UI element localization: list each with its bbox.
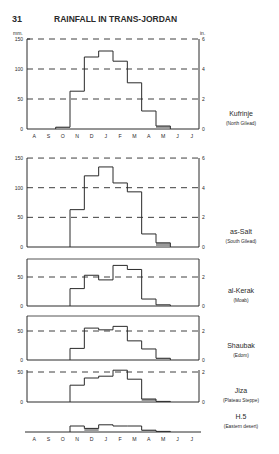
y2-tick-label: 6 (202, 36, 205, 42)
station-name: al-Kerak (228, 287, 255, 294)
month-label: M (132, 133, 136, 139)
station-name: Jiza (235, 387, 248, 394)
rainfall-panel-shaubak: 00502Shaubak(Edom) (17, 316, 255, 363)
small-bar-shade (84, 428, 98, 432)
y-tick-label: 150 (15, 36, 24, 42)
y-tick-label: 50 (17, 328, 23, 334)
station-region: (Edom) (233, 353, 249, 358)
rainfall-histogram (70, 167, 170, 247)
month-label: A (32, 133, 36, 139)
month-label: N (75, 133, 79, 139)
y-tick-label: 0 (20, 244, 23, 250)
station-region: (North Gilead) (226, 121, 257, 126)
station-name: H.5 (236, 413, 247, 420)
y-tick-label: 0 (20, 357, 23, 363)
month-label: M (161, 133, 165, 139)
y2-tick-label: 0 (202, 126, 205, 132)
month-label: J (176, 436, 179, 442)
rainfall-panel-al-kerak: 00502al-Kerak(Moab) (17, 259, 254, 309)
month-label: D (90, 133, 94, 139)
month-label: D (90, 436, 94, 442)
rainfall-histogram (70, 370, 170, 402)
month-label: F (119, 133, 122, 139)
month-label: N (75, 436, 79, 442)
month-label: A (147, 436, 151, 442)
y2-tick-label: 4 (202, 185, 205, 191)
station-name: Shaubak (227, 342, 255, 349)
y2-tick-label: 0 (202, 399, 205, 405)
month-label: F (119, 436, 122, 442)
y-tick-label: 100 (15, 185, 24, 191)
rainfall-figure: 31 RAINFALL IN TRANS-JORDAN mm. in. 0050… (0, 0, 279, 454)
y2-tick-label: 0 (202, 357, 205, 363)
y-tick-label: 50 (17, 369, 23, 375)
month-label: J (105, 436, 108, 442)
y2-tick-label: 2 (202, 96, 205, 102)
y-tick-label: 50 (17, 274, 23, 280)
month-label: A (32, 436, 36, 442)
chart-panels: 0050210041506Kufrinje(North Gilead)00502… (15, 36, 260, 432)
y-tick-label: 50 (17, 214, 23, 220)
month-label: S (47, 133, 51, 139)
month-label: S (47, 436, 51, 442)
station-region: (Moab) (233, 298, 249, 303)
rainfall-panel-h-5: H.5(Eastern desert) (25, 413, 259, 432)
month-label: J (191, 133, 194, 139)
y2-tick-label: 0 (202, 244, 205, 250)
month-axis-bottom: ASONDJFMAMJJ (32, 436, 193, 442)
y-tick-label: 0 (20, 126, 23, 132)
month-label: A (147, 133, 151, 139)
rainfall-histogram (70, 265, 170, 306)
y-tick-label: 0 (20, 303, 23, 309)
station-name: as-Salt (230, 228, 252, 235)
y-tick-label: 50 (17, 96, 23, 102)
station-region: (Plateau Steppe) (223, 398, 259, 403)
y-tick-label: 0 (20, 399, 23, 405)
y2-tick-label: 2 (202, 369, 205, 375)
month-label: M (132, 436, 136, 442)
page-number: 31 (12, 14, 22, 24)
station-name: Kufrinje (229, 110, 253, 118)
y2-tick-label: 2 (202, 274, 205, 280)
month-label: J (191, 436, 194, 442)
month-label: O (61, 436, 65, 442)
figure-title: RAINFALL IN TRANS-JORDAN (54, 14, 177, 24)
small-bar-shade (156, 243, 170, 247)
y-tick-label: 150 (15, 155, 24, 161)
rainfall-histogram (56, 51, 171, 129)
month-label: M (161, 436, 165, 442)
rainfall-panel-as-salt: 0050210041506as-Salt(South Gilead) (15, 155, 257, 250)
rainfall-panel-kufrinje: 0050210041506Kufrinje(North Gilead) (15, 36, 257, 132)
month-axis-top: ASONDJFMAMJJ (32, 133, 193, 139)
station-region: (Eastern desert) (224, 424, 259, 429)
y2-tick-label: 0 (202, 303, 205, 309)
month-label: J (176, 133, 179, 139)
rainfall-panel-jiza: 00502Jiza(Plateau Steppe) (17, 369, 259, 405)
y2-tick-label: 2 (202, 328, 205, 334)
y-tick-label: 100 (15, 66, 24, 72)
y2-tick-label: 6 (202, 155, 205, 161)
y2-tick-label: 2 (202, 214, 205, 220)
y2-tick-label: 4 (202, 66, 205, 72)
station-region: (South Gilead) (226, 239, 257, 244)
month-label: J (105, 133, 108, 139)
month-label: O (61, 133, 65, 139)
